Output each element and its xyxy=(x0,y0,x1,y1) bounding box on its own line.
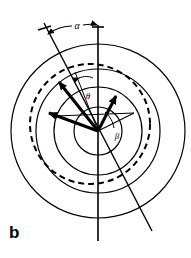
tilted-axis-tick xyxy=(38,26,51,30)
alpha-arc-right xyxy=(83,24,97,25)
alpha-arc-left xyxy=(48,26,72,34)
beta-label: β xyxy=(114,131,120,141)
figure-panel-b: α θ β b xyxy=(0,0,191,258)
theta-reference-line xyxy=(75,72,98,131)
panel-label-b: b xyxy=(9,224,19,241)
alpha-label: α xyxy=(74,20,80,31)
polar-schematic-diagram: α θ β xyxy=(0,0,191,258)
theta-arc xyxy=(79,77,93,79)
offset-dashed-circle xyxy=(30,64,150,184)
theta-label: θ xyxy=(86,91,91,101)
chord-line xyxy=(56,113,134,116)
